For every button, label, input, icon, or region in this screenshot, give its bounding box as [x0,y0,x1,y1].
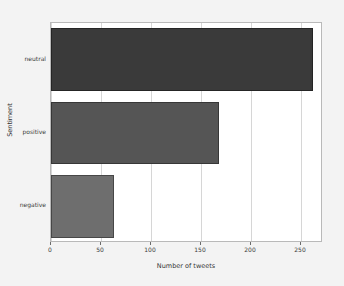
y-axis-title: Sentiment [6,84,14,156]
y-tick-label-negative: negative [2,201,46,209]
x-tick-label: 0 [38,246,62,254]
x-tick-mark [150,242,151,245]
bar-neutral [51,28,313,91]
x-tick-mark [250,242,251,245]
y-tick-label-neutral: neutral [2,55,46,63]
x-tick-label: 250 [288,246,312,254]
bar-negative [51,175,114,238]
x-tick-mark [50,242,51,245]
x-tick-mark [300,242,301,245]
x-tick-mark [100,242,101,245]
x-axis-title: Number of tweets [50,262,322,270]
plot-area [50,22,322,242]
x-tick-label: 200 [238,246,262,254]
figure-canvas: 050100150200250 neutralpositivenegative … [0,0,344,286]
x-tick-mark [200,242,201,245]
x-tick-label: 150 [188,246,212,254]
bar-positive [51,102,219,165]
x-tick-label: 100 [138,246,162,254]
x-tick-label: 50 [88,246,112,254]
